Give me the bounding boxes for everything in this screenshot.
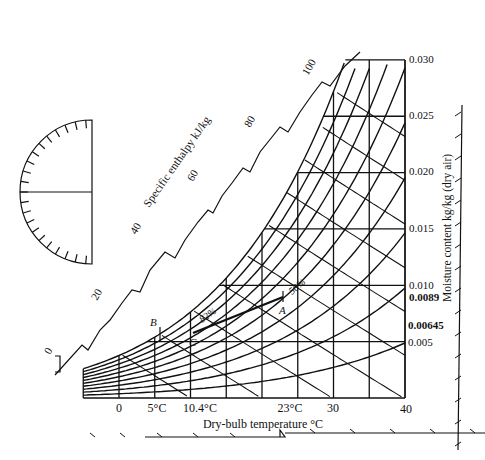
enthalpy-tick-60: 60 — [184, 167, 200, 183]
x-tick-5: 5°C — [148, 401, 167, 415]
y-tick-0-0089: 0.0089 — [409, 291, 440, 303]
y-tick-0-030: 0.030 — [409, 53, 434, 65]
y-tick-0-025: 0.025 — [409, 109, 434, 121]
x-tick-10-4: 10.4°C — [183, 401, 217, 415]
protractor-icon — [20, 120, 92, 264]
point-c-label: C — [189, 336, 197, 348]
point-a-label: A — [278, 304, 286, 316]
enthalpy-tick-20: 20 — [88, 286, 104, 302]
enthalpy-tick-40: 40 — [127, 220, 143, 236]
y-tick-0-005: 0.005 — [408, 336, 433, 348]
x-tick-23: 23°C — [278, 401, 303, 415]
x-tick-40: 40 — [400, 402, 412, 416]
enthalpy-tick-80: 80 — [241, 113, 257, 129]
y-tick-0-010: 0.010 — [409, 279, 434, 291]
enthalpy-tick-100: 100 — [299, 56, 318, 77]
x-axis-label: Dry-bulb temperature °C — [203, 417, 323, 431]
y-tick-0-00645: 0.00645 — [408, 319, 444, 331]
y-tick-0-020: 0.020 — [409, 165, 434, 177]
psychrometric-chart: 0 5°C 10.4°C 23°C 30 40 Dry-bulb tempera… — [0, 0, 485, 460]
enthalpy-axis-label: Specific enthalpy kJ/kg — [141, 114, 214, 210]
x-tick-30: 30 — [327, 401, 339, 415]
y-axis-label: Moisture content kg/kg (dry air) — [441, 154, 454, 302]
x-tick-0: 0 — [116, 401, 122, 415]
y-tick-0-015: 0.015 — [409, 222, 434, 234]
enthalpy-tick-0: 0 — [41, 345, 54, 356]
point-b-label: B — [150, 316, 157, 328]
